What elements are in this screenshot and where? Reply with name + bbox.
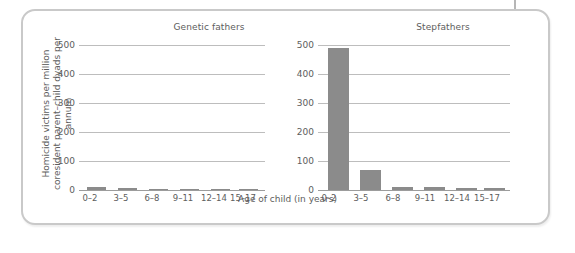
bar-genetic-9-11 bbox=[180, 189, 199, 190]
bar-genetic-0-2 bbox=[87, 187, 106, 190]
axis-baseline-right bbox=[318, 190, 510, 191]
ytick-right-400: 400 bbox=[288, 70, 314, 79]
ytick-left-200: 200 bbox=[49, 128, 75, 137]
bar-step-12-14 bbox=[456, 188, 477, 190]
bar-step-15-17 bbox=[484, 188, 505, 190]
ytick-right-300: 300 bbox=[288, 99, 314, 108]
ytick-left-100: 100 bbox=[49, 157, 75, 166]
x-axis-title: Age of child (in years) bbox=[23, 194, 552, 204]
axis-baseline-left bbox=[79, 190, 265, 191]
bar-step-3-5 bbox=[360, 170, 381, 190]
bar-genetic-15-17 bbox=[239, 189, 258, 190]
ytick-left-500: 500 bbox=[49, 41, 75, 50]
plot-area-stepfathers bbox=[318, 45, 510, 190]
panel-title-genetic-fathers: Genetic fathers bbox=[129, 22, 289, 32]
panel-title-stepfathers: Stepfathers bbox=[368, 22, 518, 32]
y-axis-title: Homicide victims per million coresident … bbox=[41, 34, 74, 194]
plot-area-genetic-fathers bbox=[79, 45, 265, 190]
ytick-right-200: 200 bbox=[288, 128, 314, 137]
ytick-right-500: 500 bbox=[288, 41, 314, 50]
bar-genetic-3-5 bbox=[118, 188, 137, 190]
ytick-right-100: 100 bbox=[288, 157, 314, 166]
bar-genetic-6-8 bbox=[149, 189, 168, 190]
ytick-left-400: 400 bbox=[49, 70, 75, 79]
bar-step-6-8 bbox=[392, 187, 413, 190]
bar-step-0-2 bbox=[328, 48, 349, 190]
figure-card: Homicide victims per million coresident … bbox=[21, 9, 550, 225]
ytick-left-300: 300 bbox=[49, 99, 75, 108]
bar-genetic-12-14 bbox=[211, 189, 230, 190]
bar-step-9-11 bbox=[424, 187, 445, 190]
